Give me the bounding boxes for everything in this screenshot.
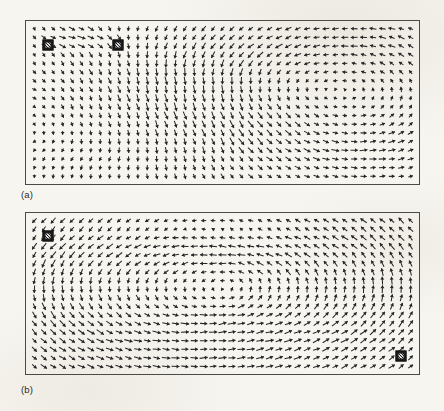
arrow-shafts: [32, 218, 413, 369]
marker-sink: [396, 351, 407, 362]
marker-source: [42, 40, 53, 51]
arrow-grid: [25, 212, 420, 375]
vector-field-a: [25, 20, 420, 185]
panel-b: [25, 212, 420, 375]
figure-page: (a) (b): [0, 0, 444, 411]
panel-a-caption: (a): [21, 190, 33, 200]
arrow-heads: [32, 27, 413, 179]
panel-b-caption: (b): [21, 385, 33, 395]
marker-sink: [113, 40, 124, 51]
arrow-grid: [25, 20, 420, 185]
panel-a: [25, 20, 420, 185]
arrow-shafts: [32, 26, 413, 179]
marker-source: [42, 231, 53, 242]
vector-field-b: [25, 212, 420, 375]
arrow-heads: [32, 218, 413, 369]
